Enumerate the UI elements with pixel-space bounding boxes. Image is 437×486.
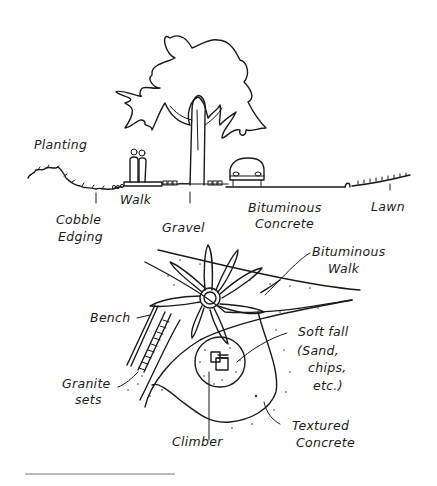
granite-sets — [138, 312, 171, 372]
lawn-line — [352, 175, 410, 186]
planting-shrub — [28, 167, 122, 189]
label-textured-concrete-2: Concrete — [296, 435, 355, 450]
label-bituminous-concrete-2: Concrete — [255, 216, 314, 231]
label-bituminous-walk-2: Walk — [328, 261, 360, 276]
plan-view: Bituminous Walk Bench Granite sets Soft … — [62, 244, 386, 450]
label-cobble-edging-1: Cobble — [56, 212, 101, 227]
label-textured-concrete-1: Textured — [292, 418, 349, 433]
label-granite-sets-2: sets — [75, 392, 102, 407]
label-cobble-edging-2: Edging — [58, 229, 103, 244]
people-figures — [130, 149, 146, 182]
label-gravel: Gravel — [162, 220, 205, 235]
label-walk: Walk — [120, 192, 152, 207]
textured-concrete-area — [152, 312, 277, 422]
label-climber: Climber — [172, 434, 223, 449]
landscape-sketch: Planting Cobble Edging Walk Gravel Bitum… — [0, 0, 437, 486]
car — [230, 158, 264, 186]
label-bench: Bench — [90, 310, 130, 325]
label-soft-fall-3: chips, — [308, 360, 347, 375]
label-granite-sets-1: Granite — [62, 376, 111, 391]
label-soft-fall-2: (Sand, — [297, 343, 339, 358]
label-lawn: Lawn — [371, 199, 405, 214]
label-bituminous-walk-1: Bituminous — [312, 244, 386, 259]
climber — [209, 352, 228, 440]
label-soft-fall-4: etc.) — [313, 378, 343, 393]
label-bituminous-concrete-1: Bituminous — [248, 200, 322, 215]
star-sculpture — [150, 245, 264, 344]
label-soft-fall-1: Soft fall — [298, 324, 349, 339]
section-elevation: Planting Cobble Edging Walk Gravel Bitum… — [28, 36, 410, 244]
label-planting: Planting — [34, 137, 87, 152]
